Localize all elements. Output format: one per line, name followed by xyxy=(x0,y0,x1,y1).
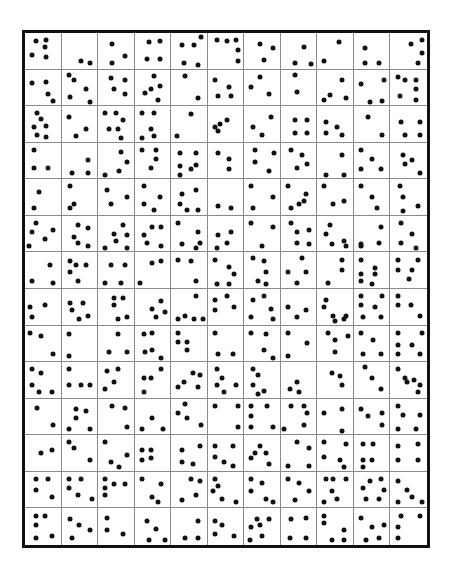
dot xyxy=(322,521,327,526)
dot xyxy=(375,205,380,210)
dot xyxy=(360,352,365,357)
dot xyxy=(103,492,108,497)
dot xyxy=(404,487,409,492)
dot xyxy=(157,195,162,200)
dot xyxy=(256,392,261,397)
dot xyxy=(378,352,383,357)
dot xyxy=(51,280,56,285)
grid-cell xyxy=(62,362,99,399)
dot xyxy=(75,240,80,245)
dot xyxy=(152,134,157,139)
dot xyxy=(89,496,94,501)
grid-cell xyxy=(281,289,318,326)
dot xyxy=(73,407,78,412)
dot xyxy=(199,35,204,40)
dot xyxy=(301,198,306,203)
dot xyxy=(159,355,164,360)
dot xyxy=(305,162,310,167)
dot xyxy=(230,463,235,468)
dot xyxy=(152,73,157,78)
dot xyxy=(159,367,164,372)
grid-cell xyxy=(281,106,318,143)
grid-cell xyxy=(208,216,245,253)
grid-cell xyxy=(244,143,281,180)
dot xyxy=(75,222,80,227)
dot xyxy=(66,353,71,358)
grid-cell xyxy=(390,399,427,436)
dot xyxy=(270,224,275,229)
dot xyxy=(261,348,266,353)
dot xyxy=(150,416,155,421)
dot xyxy=(399,240,404,245)
dot xyxy=(324,172,329,177)
grid-cell xyxy=(208,472,245,509)
dot xyxy=(75,492,80,497)
dot xyxy=(113,238,118,243)
dot xyxy=(197,240,202,245)
dot xyxy=(414,245,419,250)
dot xyxy=(256,278,261,283)
dot xyxy=(194,151,199,156)
dot xyxy=(103,111,108,116)
dot xyxy=(235,425,240,430)
dot xyxy=(225,294,230,299)
dot xyxy=(139,111,144,116)
dot xyxy=(296,202,301,207)
dot xyxy=(263,269,268,274)
dot xyxy=(382,522,387,527)
dot xyxy=(124,425,129,430)
dot xyxy=(30,315,35,320)
dot xyxy=(153,526,158,531)
dot xyxy=(157,56,162,61)
dot xyxy=(122,54,127,59)
dot xyxy=(178,151,183,156)
grid-cell xyxy=(171,106,208,143)
dot xyxy=(30,278,35,283)
dot xyxy=(216,94,221,99)
dot xyxy=(73,262,78,267)
dot xyxy=(331,476,336,481)
dot xyxy=(188,259,193,264)
dot xyxy=(141,202,146,207)
dot xyxy=(199,423,204,428)
dot xyxy=(359,330,364,335)
dot xyxy=(194,278,199,283)
dot xyxy=(230,352,235,357)
dot xyxy=(75,278,80,283)
grid-cell xyxy=(317,33,354,70)
dot xyxy=(369,458,374,463)
dot xyxy=(212,403,217,408)
dot xyxy=(414,77,419,82)
dot xyxy=(378,476,383,481)
dot xyxy=(84,409,89,414)
dot xyxy=(324,476,329,481)
dot xyxy=(322,513,327,518)
dot xyxy=(227,167,232,172)
dot xyxy=(249,425,254,430)
dot xyxy=(66,332,71,337)
dot xyxy=(301,423,306,428)
dot xyxy=(195,63,200,68)
dot xyxy=(340,407,345,412)
grid-cell xyxy=(281,508,318,545)
grid-cell xyxy=(354,326,391,363)
grid-cell xyxy=(317,252,354,289)
dot xyxy=(87,61,92,66)
dot xyxy=(148,376,153,381)
dot xyxy=(268,306,273,311)
dot xyxy=(322,97,327,102)
dot xyxy=(414,97,419,102)
dot xyxy=(303,535,308,540)
dot xyxy=(176,410,181,415)
dot xyxy=(124,350,129,355)
dot xyxy=(119,149,124,154)
grid-cell xyxy=(25,70,62,107)
dot xyxy=(201,317,206,322)
dot xyxy=(401,195,406,200)
dot xyxy=(294,280,299,285)
dot xyxy=(137,280,142,285)
dot xyxy=(216,233,221,238)
dot xyxy=(322,58,327,63)
dot xyxy=(150,348,155,353)
dot xyxy=(194,162,199,167)
